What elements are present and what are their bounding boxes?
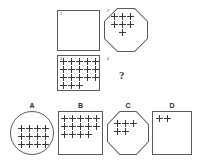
plus-icon (18, 141, 25, 148)
plus-icon (77, 123, 84, 130)
plus-icon (68, 82, 75, 89)
plus-row (60, 58, 100, 66)
plus-row (111, 29, 135, 37)
plus-row (111, 21, 135, 29)
plus-icon (76, 58, 83, 65)
plus-row (114, 128, 138, 136)
plus-icon (60, 66, 67, 73)
puzzle-canvas: 1 2 3 (0, 0, 197, 164)
plus-icon (26, 125, 33, 132)
plus-row (61, 123, 101, 131)
plus-icon (130, 120, 137, 127)
option-label-b: B (58, 102, 103, 109)
plus-icon (114, 120, 121, 127)
plus-icon (122, 120, 129, 127)
plus-icon (18, 125, 25, 132)
plus-row (61, 131, 101, 139)
plus-icon (61, 115, 68, 122)
plus-icon (34, 125, 41, 132)
plus-icon (84, 74, 91, 81)
option-a-plus-grid (18, 125, 50, 149)
option-c-plus-grid (114, 120, 138, 136)
plus-icon (93, 123, 100, 130)
option-label-a: A (10, 102, 54, 109)
plus-icon (84, 66, 91, 73)
plus-icon (77, 115, 84, 122)
plus-row (60, 66, 100, 74)
plus-icon (60, 82, 67, 89)
plus-row (60, 82, 100, 90)
matrix-cell-1[interactable]: 1 (57, 10, 100, 51)
option-label-d: D (152, 102, 192, 109)
plus-icon (69, 131, 76, 138)
question-mark: ? (119, 70, 125, 81)
plus-icon (26, 133, 33, 140)
plus-icon (119, 21, 126, 28)
plus-icon (61, 131, 68, 138)
option-b-plus-grid (61, 115, 101, 139)
plus-icon (92, 74, 99, 81)
plus-row (18, 125, 50, 133)
plus-icon (60, 74, 67, 81)
plus-icon (34, 133, 41, 140)
plus-icon (127, 13, 134, 20)
plus-icon (61, 123, 68, 130)
plus-row (111, 13, 135, 21)
plus-icon (122, 128, 129, 135)
plus-icon (111, 13, 118, 20)
plus-icon (85, 123, 92, 130)
plus-icon (76, 66, 83, 73)
plus-icon (18, 133, 25, 140)
plus-icon (76, 82, 83, 89)
plus-icon (42, 125, 49, 132)
plus-icon (68, 66, 75, 73)
option-b[interactable] (58, 111, 103, 155)
plus-icon (111, 21, 118, 28)
plus-icon (84, 58, 91, 65)
matrix-cell-3-plus-grid (60, 58, 100, 90)
plus-icon (69, 115, 76, 122)
matrix-cell-1-index: 1 (60, 12, 62, 16)
option-d-plus-grid (156, 115, 172, 123)
plus-icon (77, 131, 84, 138)
plus-icon (92, 58, 99, 65)
plus-row (156, 115, 172, 123)
plus-icon (42, 141, 49, 148)
matrix-cell-3[interactable]: 3 (57, 55, 100, 91)
plus-icon (164, 115, 171, 122)
plus-icon (156, 115, 163, 122)
matrix-cell-2-plus-grid (111, 13, 135, 37)
plus-row (61, 115, 101, 123)
plus-icon (76, 74, 83, 81)
matrix-cell-2-index: 2 (107, 9, 109, 13)
plus-icon (85, 131, 92, 138)
option-label-c: C (107, 102, 149, 109)
matrix-cell-4-index: 4 (107, 57, 109, 61)
plus-row (60, 74, 100, 82)
plus-icon (69, 123, 76, 130)
plus-icon (119, 13, 126, 20)
plus-icon (93, 115, 100, 122)
plus-icon (26, 141, 33, 148)
option-a[interactable] (10, 111, 54, 155)
plus-icon (85, 115, 92, 122)
option-d[interactable] (152, 111, 192, 155)
plus-icon (42, 133, 49, 140)
plus-icon (60, 58, 67, 65)
plus-row (18, 141, 50, 149)
plus-icon (114, 128, 121, 135)
plus-icon (68, 74, 75, 81)
plus-row (114, 120, 138, 128)
plus-row (18, 133, 50, 141)
plus-icon (34, 141, 41, 148)
plus-icon (68, 58, 75, 65)
plus-icon (92, 66, 99, 73)
plus-icon (119, 29, 126, 36)
plus-icon (127, 21, 134, 28)
